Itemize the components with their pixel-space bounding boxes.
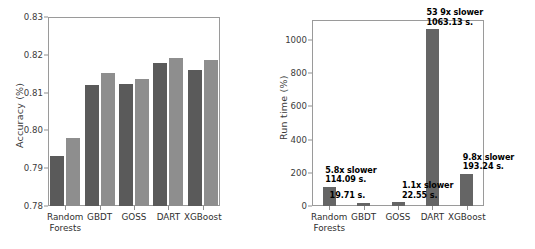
accuracy-x-tick-label: GBDT: [87, 212, 112, 223]
runtime-x-tick-mark: [432, 206, 433, 210]
accuracy-x-tick-label-line: GBDT: [87, 212, 112, 223]
accuracy-x-tick-mark: [65, 206, 66, 210]
figure-root: Accuracy (%) 0.780.790.800.810.820.83 Ra…: [0, 0, 535, 249]
runtime-annotation-line: 22.55 s.: [402, 191, 453, 201]
runtime-x-tick-mark: [398, 206, 399, 210]
accuracy-bar: [204, 60, 218, 206]
accuracy-bar: [50, 156, 64, 206]
runtime-y-tick-label: 200: [272, 168, 307, 178]
runtime-x-tick-label: XGBoost: [448, 212, 486, 223]
accuracy-x-tick-label-line: GOSS: [122, 212, 147, 223]
accuracy-x-tick-label: GOSS: [122, 212, 147, 223]
runtime-annotation-line: 114.09 s.: [325, 175, 376, 185]
runtime-x-tick-label-line: GOSS: [386, 212, 411, 223]
runtime-annotation: 9.8x slower193.24 s.: [463, 153, 514, 172]
accuracy-x-tick-mark: [100, 206, 101, 210]
accuracy-y-tick-label: 0.82: [10, 50, 43, 60]
accuracy-x-tick-mark: [134, 206, 135, 210]
accuracy-bar: [101, 73, 115, 206]
accuracy-y-tick-label: 0.81: [10, 88, 43, 98]
runtime-annotation-line: 19.71 s.: [330, 191, 366, 201]
runtime-annotation: 1.1x slower22.55 s.: [402, 181, 453, 200]
runtime-x-tick-label-line: DART: [421, 212, 444, 223]
accuracy-x-tick-label: RandomForests: [47, 212, 83, 233]
runtime-annotation: 53 9x slower1063.13 s.: [426, 8, 483, 27]
accuracy-y-tick-label: 0.79: [10, 163, 43, 173]
accuracy-bar: [188, 70, 202, 206]
accuracy-y-tick-mark: [44, 54, 48, 55]
runtime-x-tick-label-line: XGBoost: [448, 212, 486, 223]
runtime-y-tick-mark: [308, 106, 312, 107]
runtime-x-tick-label-line: Random: [311, 212, 347, 223]
runtime-x-tick-label: RandomForests: [311, 212, 347, 233]
runtime-y-tick-mark: [308, 172, 312, 173]
accuracy-y-tick-label: 0.78: [10, 201, 43, 211]
runtime-x-tick-label: GBDT: [351, 212, 376, 223]
runtime-y-tick-label: 0: [272, 201, 307, 211]
runtime-chart-panel: Run time (%) 02004006008001000 RandomFor…: [268, 0, 535, 249]
runtime-x-tick-mark: [467, 206, 468, 210]
runtime-bar: [460, 174, 473, 206]
accuracy-x-tick-label-line: XGBoost: [184, 212, 222, 223]
runtime-annotation-line: 1063.13 s.: [426, 18, 483, 28]
accuracy-bar: [85, 85, 99, 206]
accuracy-y-tick-label: 0.83: [10, 12, 43, 22]
runtime-x-tick-mark: [364, 206, 365, 210]
accuracy-y-tick-mark: [44, 168, 48, 169]
runtime-x-tick-label: GOSS: [386, 212, 411, 223]
accuracy-y-tick-label: 0.80: [10, 125, 43, 135]
runtime-y-tick-label: 400: [272, 135, 307, 145]
runtime-y-tick-label: 1000: [272, 35, 307, 45]
accuracy-bar: [66, 138, 80, 206]
runtime-y-tick-label: 600: [272, 101, 307, 111]
accuracy-bar: [169, 58, 183, 206]
accuracy-y-tick-mark: [44, 130, 48, 131]
runtime-y-tick-mark: [308, 139, 312, 140]
accuracy-x-tick-label-line: Forests: [47, 223, 83, 234]
runtime-y-tick-mark: [308, 73, 312, 74]
accuracy-bar: [119, 84, 133, 206]
runtime-x-tick-label: DART: [421, 212, 444, 223]
runtime-y-tick-label: 800: [272, 68, 307, 78]
accuracy-bar: [135, 79, 149, 206]
runtime-annotation: 5.8x slower114.09 s.: [325, 166, 376, 185]
runtime-annotation-line: 193.24 s.: [463, 162, 514, 172]
runtime-x-tick-label-line: Forests: [311, 223, 347, 234]
accuracy-y-tick-mark: [44, 206, 48, 207]
runtime-y-tick-mark: [308, 206, 312, 207]
runtime-annotation: 19.71 s.: [330, 191, 366, 201]
accuracy-x-tick-label-line: DART: [157, 212, 180, 223]
accuracy-bar: [153, 63, 167, 206]
accuracy-x-tick-label-line: Random: [47, 212, 83, 223]
accuracy-y-tick-mark: [44, 92, 48, 93]
accuracy-x-tick-mark: [203, 206, 204, 210]
accuracy-y-tick-mark: [44, 17, 48, 18]
runtime-y-tick-mark: [308, 39, 312, 40]
accuracy-x-tick-mark: [168, 206, 169, 210]
accuracy-chart-panel: Accuracy (%) 0.780.790.800.810.820.83 Ra…: [0, 0, 268, 249]
accuracy-x-tick-label: XGBoost: [184, 212, 222, 223]
runtime-x-tick-mark: [329, 206, 330, 210]
runtime-x-tick-label-line: GBDT: [351, 212, 376, 223]
accuracy-x-tick-label: DART: [157, 212, 180, 223]
